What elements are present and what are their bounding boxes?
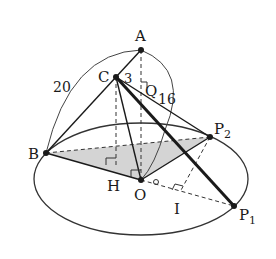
label-o: O — [134, 186, 146, 204]
label-q: Q — [145, 82, 157, 100]
point-a — [138, 47, 144, 53]
label-p1: P1 — [239, 206, 256, 227]
label-p2-main: P — [214, 120, 224, 138]
label-p2: P2 — [214, 120, 231, 141]
geometry-diagram: A C 3 Q 16 20 B H O I P2 P1 — [0, 0, 276, 259]
point-p2 — [207, 134, 213, 140]
label-b: B — [28, 145, 39, 163]
label-20: 20 — [53, 79, 71, 95]
point-o — [138, 177, 144, 183]
point-p1 — [231, 203, 237, 209]
point-b — [43, 150, 49, 156]
label-16: 16 — [158, 91, 176, 107]
label-p1-sub: 1 — [249, 214, 256, 227]
label-h: H — [107, 177, 120, 195]
point-c — [113, 74, 119, 80]
label-c: C — [98, 68, 109, 86]
label-p1-main: P — [239, 206, 249, 224]
shaded-triangle-bop2 — [46, 137, 210, 180]
label-i: I — [174, 200, 180, 218]
label-3: 3 — [124, 71, 132, 86]
label-a: A — [134, 27, 146, 45]
label-p2-sub: 2 — [224, 128, 231, 141]
